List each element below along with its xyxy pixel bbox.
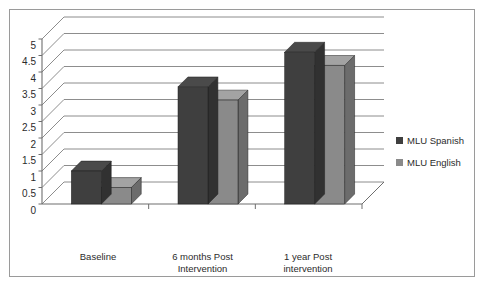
x-tick-label-6-months-post-intervention: 6 months Post Intervention [150, 251, 255, 274]
y-tick-label: 3.5 [10, 89, 36, 100]
legend-swatch-icon [396, 159, 403, 166]
x-tick-label-1-year-post-intervention: 1 year Post intervention [258, 251, 358, 274]
y-tick-label: 4.5 [10, 56, 36, 67]
y-tick-label: 0 [10, 205, 36, 216]
legend-label: MLU English [407, 157, 461, 168]
y-tick-label: 2 [10, 139, 36, 150]
legend-item-mlu-spanish: MLU Spanish [396, 131, 476, 149]
x-tick-label-baseline: Baseline [53, 251, 143, 263]
y-tick-label: 0.5 [10, 188, 36, 199]
legend-swatch-icon [396, 137, 403, 144]
y-tick-label: 3 [10, 106, 36, 117]
y-tick-label: 1.5 [10, 155, 36, 166]
y-tick-label: 1 [10, 172, 36, 183]
chart-container: 5 4.5 4 3.5 3 2.5 2 1.5 1 0.5 0 Baseline… [0, 0, 485, 299]
legend-label: MLU Spanish [407, 135, 464, 146]
legend: MLU Spanish MLU English [396, 131, 476, 175]
legend-item-mlu-english: MLU English [396, 153, 476, 171]
y-tick-label: 4 [10, 73, 36, 84]
y-tick-label: 5 [10, 40, 36, 51]
y-tick-label: 2.5 [10, 122, 36, 133]
